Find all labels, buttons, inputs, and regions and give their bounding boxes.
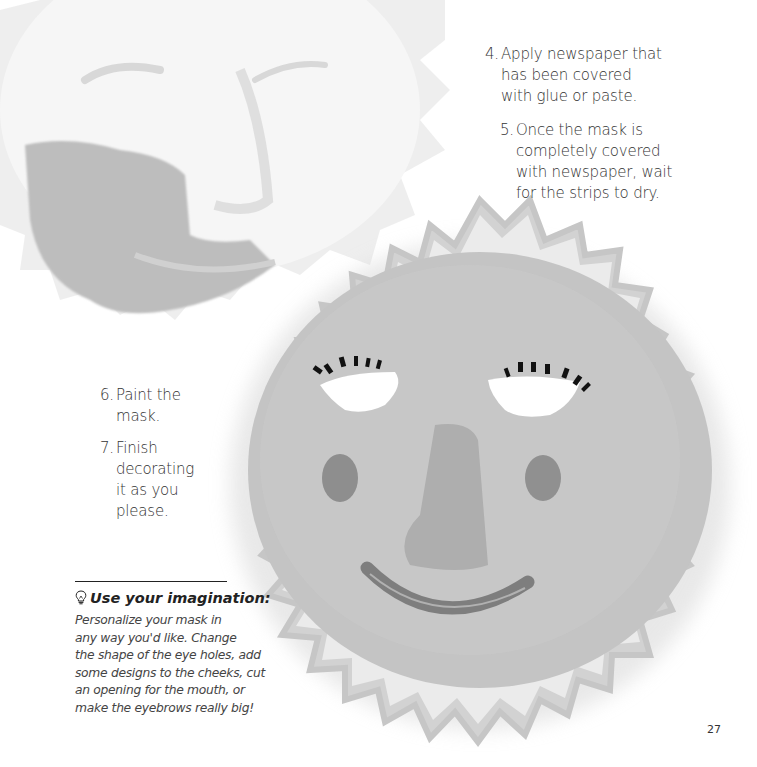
tip-text-line: the shape of the eye holes, add bbox=[75, 647, 275, 665]
tip-text-line: an opening for the mouth, or bbox=[75, 682, 275, 700]
tip-text-line: make the eyebrows really big! bbox=[75, 700, 275, 718]
step-text-line: Apply newspaper that bbox=[501, 44, 662, 65]
step-7: 7. Finish decorating it as you please. bbox=[100, 438, 194, 522]
tip-divider bbox=[75, 581, 227, 582]
step-number: 5. bbox=[500, 120, 514, 141]
right-cheek bbox=[525, 455, 561, 501]
page-number: 27 bbox=[707, 723, 721, 736]
tip-text-line: Personalize your mask in bbox=[75, 612, 275, 630]
tip-heading: Use your imagination: bbox=[75, 590, 271, 606]
step-text-line: it as you bbox=[116, 480, 194, 501]
step-number: 4. bbox=[485, 44, 499, 65]
step-text-line: for the strips to dry. bbox=[516, 183, 672, 204]
step-text-line: mask. bbox=[116, 406, 181, 427]
step-text-line: completely covered bbox=[516, 141, 672, 162]
step-6: 6. Paint the mask. bbox=[100, 385, 181, 427]
step-text-line: decorating bbox=[116, 459, 194, 480]
step-5: 5. Once the mask is completely covered w… bbox=[500, 120, 672, 204]
left-cheek bbox=[322, 454, 358, 502]
step-number: 6. bbox=[100, 385, 114, 406]
tip-text-line: some designs to the cheeks, cut bbox=[75, 665, 275, 683]
step-text-line: please. bbox=[116, 501, 194, 522]
tip-body: Personalize your mask in any way you'd l… bbox=[75, 612, 275, 717]
step-text-line: Once the mask is bbox=[516, 120, 672, 141]
step-text-line: with glue or paste. bbox=[501, 86, 662, 107]
step-text-line: Finish bbox=[116, 438, 194, 459]
tip-text-line: any way you'd like. Change bbox=[75, 630, 275, 648]
step-text-line: has been covered bbox=[501, 65, 662, 86]
lightbulb-icon bbox=[75, 590, 87, 605]
step-text-line: with newspaper, wait bbox=[516, 162, 672, 183]
step-text-line: Paint the bbox=[116, 385, 181, 406]
step-number: 7. bbox=[100, 438, 114, 459]
step-4: 4. Apply newspaper that has been covered… bbox=[485, 44, 662, 107]
tip-title: Use your imagination: bbox=[90, 590, 271, 606]
